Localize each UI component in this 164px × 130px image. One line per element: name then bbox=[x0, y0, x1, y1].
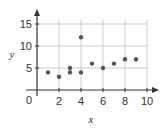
data-point bbox=[134, 57, 138, 61]
y-axis-label: y bbox=[9, 48, 15, 60]
x-tick-label: 2 bbox=[56, 95, 62, 107]
x-axis-arrow-icon bbox=[152, 87, 159, 93]
data-point bbox=[68, 66, 72, 70]
data-point bbox=[123, 57, 127, 61]
data-point bbox=[112, 61, 116, 65]
data-point bbox=[101, 66, 105, 70]
y-tick-label: 15 bbox=[20, 18, 32, 30]
y-tick-label: 5 bbox=[26, 62, 32, 74]
grid-lines bbox=[37, 20, 147, 90]
x-axis-label: x bbox=[88, 113, 94, 125]
data-point bbox=[90, 61, 94, 65]
x-tick-label: 4 bbox=[78, 95, 84, 107]
data-point bbox=[57, 75, 61, 79]
data-point bbox=[68, 70, 72, 74]
origin-label: 0 bbox=[26, 94, 32, 106]
x-tick-label: 6 bbox=[100, 95, 106, 107]
y-axis-arrow-icon bbox=[34, 9, 40, 16]
data-point bbox=[79, 35, 83, 39]
axes bbox=[26, 9, 159, 96]
data-point bbox=[46, 70, 50, 74]
y-tick-label: 10 bbox=[20, 40, 32, 52]
data-point bbox=[79, 70, 83, 74]
scatter-plot: 24681051015 x y 0 bbox=[0, 0, 164, 130]
x-tick-label: 10 bbox=[141, 95, 153, 107]
tick-labels: 24681051015 bbox=[20, 18, 153, 107]
x-tick-label: 8 bbox=[122, 95, 128, 107]
data-points bbox=[46, 35, 138, 79]
